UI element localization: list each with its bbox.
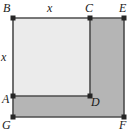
vertex-point-b [11,16,16,21]
vertex-label-d: D [91,96,100,108]
vertex-point-e [122,16,127,21]
inner-rectangle-region [13,18,90,96]
side-label-top-x: x [47,2,52,14]
vertex-label-g: G [2,119,11,131]
side-label-left-x: x [1,51,6,63]
vertex-label-e: E [119,2,126,14]
vertex-point-g [11,115,16,120]
vertex-point-c [88,16,93,21]
vertex-label-c: C [85,2,93,14]
vertex-label-a: A [2,93,9,105]
vertex-label-b: B [3,2,10,14]
vertex-point-a [11,94,16,99]
vertex-label-f: F [119,119,126,131]
geometry-diagram: B C E A D G F x x [0,0,134,135]
diagram-canvas [0,0,134,135]
